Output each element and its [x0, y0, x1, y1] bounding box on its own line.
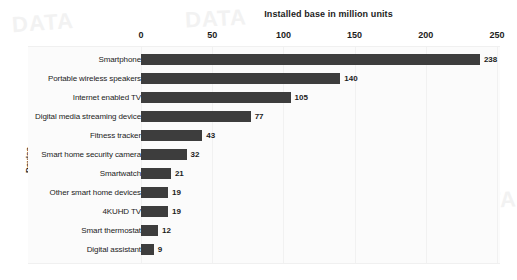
- bar-value-label: 77: [255, 111, 264, 122]
- bar-value-label: 21: [175, 168, 184, 179]
- x-tick-label: 250: [489, 30, 504, 40]
- category-label: Portable wireless speakers: [0, 74, 141, 83]
- x-tick-label: 200: [418, 30, 433, 40]
- bar-row: Smartphone238: [0, 50, 517, 69]
- bar[interactable]: [141, 244, 154, 255]
- category-label: Fitness tracker: [0, 131, 141, 140]
- bar-value-label: 19: [172, 187, 181, 198]
- bar-row: Digital assistant9: [0, 240, 517, 259]
- bar-row: Smartwatch21: [0, 164, 517, 183]
- x-tick-label: 100: [276, 30, 291, 40]
- bar-value-label: 19: [172, 206, 181, 217]
- category-label: Smartwatch: [0, 169, 141, 178]
- bar[interactable]: [141, 225, 158, 236]
- bar-row: Digital media streaming device77: [0, 107, 517, 126]
- bar-value-label: 43: [206, 130, 215, 141]
- bar-value-label: 140: [344, 73, 357, 84]
- bar-row: Portable wireless speakers140: [0, 69, 517, 88]
- bar-value-label: 105: [295, 92, 308, 103]
- bar[interactable]: [141, 187, 168, 198]
- bar-value-label: 238: [484, 54, 497, 65]
- bar-row: 4KUHD TV19: [0, 202, 517, 221]
- x-tick-label: 0: [138, 30, 143, 40]
- bar[interactable]: [141, 73, 340, 84]
- category-label: Smart thermostat: [0, 226, 141, 235]
- category-label: 4KUHD TV: [0, 207, 141, 216]
- bar-row: Internet enabled TV105: [0, 88, 517, 107]
- chart-title: Installed base in million units: [0, 9, 517, 19]
- bar-value-label: 9: [158, 244, 162, 255]
- bar-row: Smart thermostat12: [0, 221, 517, 240]
- bar[interactable]: [141, 54, 480, 65]
- bar[interactable]: [141, 149, 187, 160]
- bar[interactable]: [141, 92, 291, 103]
- bar-row: Fitness tracker43: [0, 126, 517, 145]
- bar-value-label: 12: [162, 225, 171, 236]
- x-axis: 050100150200250: [0, 30, 517, 44]
- chart-title-text: Installed base in million units: [264, 9, 393, 19]
- x-tick-label: 150: [347, 30, 362, 40]
- bar[interactable]: [141, 111, 251, 122]
- bar-row: Other smart home devices19: [0, 183, 517, 202]
- category-label: Digital media streaming device: [0, 112, 141, 121]
- category-label: Internet enabled TV: [0, 93, 141, 102]
- bar-row: Smart home security camera32: [0, 145, 517, 164]
- bar-rows: Smartphone238Portable wireless speakers1…: [0, 46, 517, 262]
- category-label: Other smart home devices: [0, 188, 141, 197]
- bar[interactable]: [141, 168, 171, 179]
- bar-chart: DATA DATA DATA Installed base in million…: [0, 0, 517, 280]
- bar-value-label: 32: [191, 149, 200, 160]
- x-tick-label: 50: [207, 30, 217, 40]
- category-label: Digital assistant: [0, 245, 141, 254]
- bar[interactable]: [141, 130, 202, 141]
- bar[interactable]: [141, 206, 168, 217]
- category-label: Smart home security camera: [0, 150, 141, 159]
- category-label: Smartphone: [0, 55, 141, 64]
